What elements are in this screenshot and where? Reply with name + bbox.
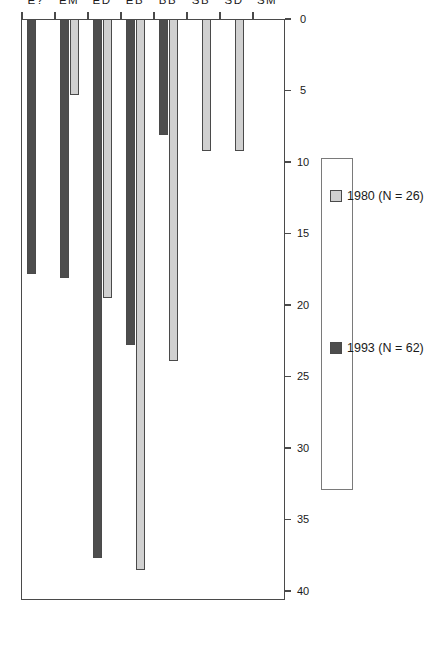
legend-label: 1980 (N = 26) (347, 189, 424, 203)
value-tick-label: 40 (290, 585, 316, 597)
legend-label: 1993 (N = 62) (347, 341, 424, 355)
bar-eb-1993 (126, 19, 136, 345)
category-tick (54, 12, 56, 19)
category-tick (252, 12, 254, 19)
category-tick (87, 12, 89, 19)
bar-sb-1980 (202, 19, 212, 151)
category-label-sd: SD (217, 0, 251, 6)
value-tick-label: 0 (290, 13, 316, 25)
value-tick-label: 10 (290, 156, 316, 168)
bar-group-sd (219, 19, 252, 600)
category-tick (186, 12, 188, 19)
value-tick-label: 5 (290, 85, 316, 97)
category-label-sb: SB (184, 0, 218, 6)
legend-entries: 1980 (N = 26)1993 (N = 62) (322, 159, 352, 489)
legend: 1980 (N = 26)1993 (N = 62) (321, 158, 353, 490)
value-tick-label: 20 (290, 299, 316, 311)
category-label-sm: SM (250, 0, 284, 6)
value-tick-label: 30 (290, 442, 316, 454)
category-tick (21, 12, 23, 19)
bar-bb-1980 (169, 19, 179, 361)
category-tick (219, 12, 221, 19)
bar-group-eb (120, 19, 153, 600)
legend-swatch-icon (330, 190, 342, 202)
bar-bb-1993 (159, 19, 169, 135)
bar-group-ed (87, 19, 120, 600)
category-label-ed: ED (85, 0, 119, 6)
legend-entry-1993: 1993 (N = 62) (330, 341, 424, 355)
bar-e-1993 (27, 19, 37, 274)
bar-sd-1980 (235, 19, 245, 151)
bar-eb-1980 (136, 19, 146, 570)
bar-group-em (54, 19, 87, 600)
bar-ed-1993 (93, 19, 103, 558)
bar-group-bb (153, 19, 186, 600)
value-tick-label: 15 (290, 228, 316, 240)
category-label-eb: EB (118, 0, 152, 6)
bar-em-1993 (60, 19, 70, 278)
value-tick-label: 25 (290, 371, 316, 383)
bar-group-e (21, 19, 54, 600)
category-tick (153, 12, 155, 19)
bar-em-1980 (70, 19, 80, 95)
bar-ed-1980 (103, 19, 113, 298)
bar-group-sm (252, 19, 285, 600)
category-tick (120, 12, 122, 19)
bars-layer (21, 19, 285, 600)
value-tick-label: 35 (290, 514, 316, 526)
category-label-bb: BB (151, 0, 185, 6)
legend-swatch-icon (330, 342, 342, 354)
category-label-e: E? (19, 0, 53, 6)
category-label-em: EM (52, 0, 86, 6)
bar-group-sb (186, 19, 219, 600)
legend-entry-1980: 1980 (N = 26) (330, 189, 424, 203)
